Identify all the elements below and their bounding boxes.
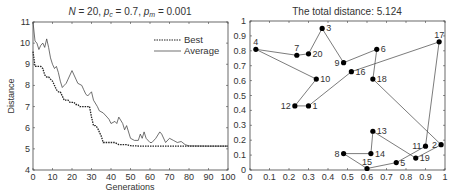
x-tick-label: 0.9 [419,172,432,182]
legend: Best Average [154,34,219,56]
city-node-11 [423,144,428,149]
y-tick-label: 0.4 [233,105,246,115]
city-node-2 [439,142,444,147]
city-node-9 [341,60,346,65]
city-label-6: 6 [381,44,386,54]
x-tick-label: 0.2 [283,172,296,182]
y-tick-label: 0 [241,165,246,175]
city-node-19 [413,155,418,160]
x-tick-label: 1 [442,172,447,182]
y-tick-label: 8 [25,80,30,90]
x-tick-label: 0.7 [380,172,393,182]
y-tick-label: 7 [25,102,30,112]
city-label-1: 1 [313,101,318,111]
city-label-7: 7 [294,43,299,53]
y-tick-label: 0.8 [233,46,246,56]
city-node-16 [349,69,354,74]
city-node-1 [306,103,311,108]
x-tick-label: 70 [164,172,174,182]
y-tick-label: 6 [25,123,30,133]
x-axis-label: Generations [105,182,155,192]
city-label-18: 18 [377,74,387,84]
city-label-9: 9 [335,58,340,68]
y-tick-label: 0.1 [233,150,246,160]
x-tick-label: 40 [106,172,116,182]
x-tick-label: 50 [125,172,135,182]
y-tick-label: 9 [25,59,30,69]
city-label-12: 12 [281,101,291,111]
convergence-chart: N = 20, pc = 0.7, pm = 0.001 01020304050… [6,6,236,192]
x-tick-label: 0.8 [400,172,413,182]
city-label-2: 2 [432,140,437,150]
city-label-10: 10 [320,74,330,84]
y-tick-label: 11 [21,17,30,27]
city-node-10 [314,77,319,82]
city-node-12 [292,103,297,108]
city-node-15 [364,166,369,171]
x-tick-label: 90 [203,172,213,182]
y-tick-label: 1 [241,16,246,26]
city-node-17 [437,39,442,44]
y-tick-label: 0.7 [233,61,246,71]
city-label-13: 13 [377,126,387,136]
y-tick-label: 0.3 [233,120,246,130]
city-node-5 [394,160,399,165]
city-node-14 [368,151,373,156]
city-node-4 [253,47,258,52]
x-tick-label: 20 [67,172,77,182]
city-node-8 [341,151,346,156]
legend-best-label: Best [184,34,203,45]
city-label-8: 8 [335,149,340,159]
x-tick-label: 30 [86,172,96,182]
y-tick-label: 0.9 [233,31,246,41]
city-node-7 [294,53,299,58]
x-tick-label: 0 [247,172,252,182]
city-label-11: 11 [412,141,421,151]
figure: N = 20, pc = 0.7, pm = 0.001 01020304050… [0,0,455,196]
y-tick-label: 5 [25,144,30,154]
city-label-4: 4 [253,37,258,47]
x-tick-label: 0.3 [302,172,315,182]
city-label-3: 3 [326,23,331,33]
y-tick-label: 0.2 [233,135,246,145]
x-tick-label: 0 [30,172,35,182]
x-tick-label: 0.1 [263,172,276,182]
city-label-19: 19 [420,153,430,163]
city-label-17: 17 [434,30,444,40]
x-tick-label: 60 [145,172,155,182]
x-tick-label: 10 [47,172,57,182]
city-label-16: 16 [355,67,365,77]
x-tick-label: 0.5 [341,172,354,182]
city-node-13 [370,129,375,134]
city-node-6 [374,47,379,52]
y-tick-label: 10 [20,38,30,48]
city-label-20: 20 [313,49,323,59]
tour-chart: The total distance: 5.124 00.10.20.30.40… [233,6,447,182]
city-label-14: 14 [375,149,385,159]
city-nodes: 1234567891011121314151617181920 [253,23,444,171]
city-node-20 [306,51,311,56]
city-node-3 [320,26,325,31]
y-tick-label: 0.6 [233,76,246,86]
x-tick-label: 80 [184,172,194,182]
city-node-18 [370,77,375,82]
legend-average-label: Average [184,45,219,56]
x-tick-label: 0.6 [361,172,374,182]
series-best [33,52,228,147]
y-tick-label: 0.5 [233,91,246,101]
x-tick-label: 100 [220,172,235,182]
city-label-15: 15 [362,157,372,167]
chart-title: N = 20, pc = 0.7, pm = 0.001 [68,6,192,18]
city-label-5: 5 [400,158,405,168]
y-axis-label: Distance [6,78,16,113]
y-tick-label: 4 [25,165,30,175]
x-tick-label: 0.4 [322,172,335,182]
chart-title: The total distance: 5.124 [292,6,402,17]
